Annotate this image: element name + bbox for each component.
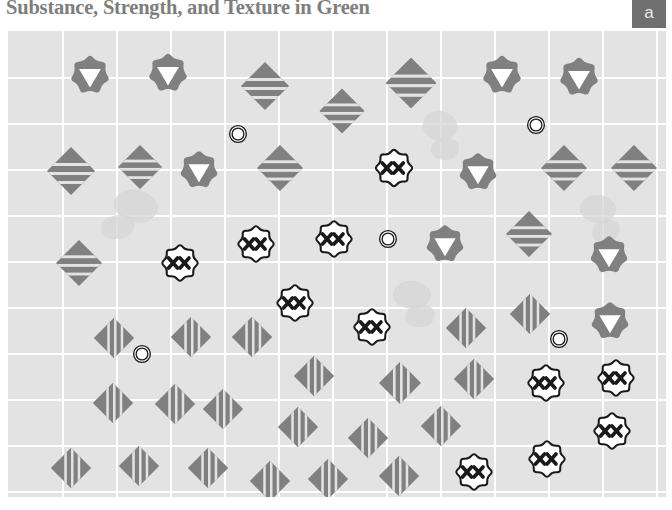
marker-flower-white-xx — [373, 147, 415, 189]
gridline-horizontal — [8, 215, 666, 217]
marker-diamond-vstripe — [50, 447, 92, 489]
marker-diamond-vstripe — [92, 382, 134, 424]
marker-diamond-vstripe — [170, 316, 212, 358]
gridline-horizontal — [8, 399, 666, 401]
gridline-vertical — [170, 31, 172, 497]
marker-diamond-hstripe — [117, 144, 163, 190]
marker-diamond-vstripe — [231, 316, 273, 358]
gridline-vertical — [116, 31, 118, 497]
gridline-horizontal — [8, 353, 666, 355]
texture-blob — [430, 137, 460, 161]
marker-diamond-vstripe — [509, 293, 551, 335]
marker-flower-white-xx — [236, 224, 277, 265]
texture-blob — [111, 185, 161, 227]
marker-flower-white-xx — [454, 452, 495, 493]
scatter-plot-area[interactable] — [8, 31, 666, 497]
gridline-vertical — [332, 31, 334, 497]
gridline-vertical — [440, 31, 442, 497]
gridline-vertical — [656, 31, 658, 497]
gridline-horizontal — [8, 261, 666, 263]
gridline-horizontal — [8, 307, 666, 309]
marker-diamond-hstripe — [240, 61, 290, 111]
marker-flower-gray-triangle — [147, 52, 189, 94]
marker-diamond-hstripe — [256, 144, 304, 192]
gridline-vertical — [548, 31, 550, 497]
marker-flower-gray-triangle — [589, 235, 630, 276]
panel-badge: a — [632, 0, 666, 28]
marker-flower-white-xx — [275, 283, 316, 324]
marker-flower-white-xx — [314, 219, 355, 260]
marker-flower-white-xx — [526, 363, 567, 404]
texture-blob — [590, 217, 622, 244]
texture-blob — [578, 193, 618, 226]
gridline-horizontal — [8, 169, 666, 171]
figure-root: Substance, Strength, and Texture in Gree… — [0, 0, 672, 510]
gridline-vertical — [602, 31, 604, 497]
gridline-vertical — [278, 31, 280, 497]
marker-diamond-vstripe — [347, 417, 389, 459]
marker-diamond-hstripe — [46, 146, 96, 196]
marker-ring-double — [527, 116, 546, 135]
marker-diamond-hstripe — [319, 88, 366, 135]
marker-flower-gray-triangle — [481, 54, 523, 96]
marker-diamond-vstripe — [293, 355, 335, 397]
marker-flower-gray-triangle — [425, 224, 466, 265]
gridline-vertical — [494, 31, 496, 497]
gridline-horizontal — [8, 491, 666, 493]
marker-diamond-vstripe — [277, 406, 319, 448]
marker-ring-double — [229, 125, 248, 144]
marker-diamond-hstripe — [385, 57, 438, 110]
marker-flower-gray-triangle — [458, 152, 499, 193]
marker-diamond-hstripe — [505, 210, 553, 258]
gridline-vertical — [62, 31, 64, 497]
marker-diamond-vstripe — [118, 445, 160, 487]
marker-diamond-vstripe — [453, 358, 495, 400]
gridline-horizontal — [8, 123, 666, 125]
marker-ring-double — [550, 330, 569, 349]
marker-flower-white-xx — [160, 243, 201, 284]
marker-ring-double — [379, 230, 398, 249]
gridline-vertical — [386, 31, 388, 497]
marker-diamond-vstripe — [154, 383, 196, 425]
marker-diamond-vstripe — [202, 388, 244, 430]
gridline-horizontal — [8, 445, 666, 447]
marker-diamond-vstripe — [445, 307, 487, 349]
gridline-horizontal — [8, 77, 666, 79]
gridline-vertical — [224, 31, 226, 497]
marker-flower-gray-triangle — [69, 54, 111, 96]
marker-diamond-hstripe — [610, 144, 658, 192]
marker-diamond-vstripe — [187, 447, 229, 489]
page-title: Substance, Strength, and Texture in Gree… — [6, 0, 606, 20]
